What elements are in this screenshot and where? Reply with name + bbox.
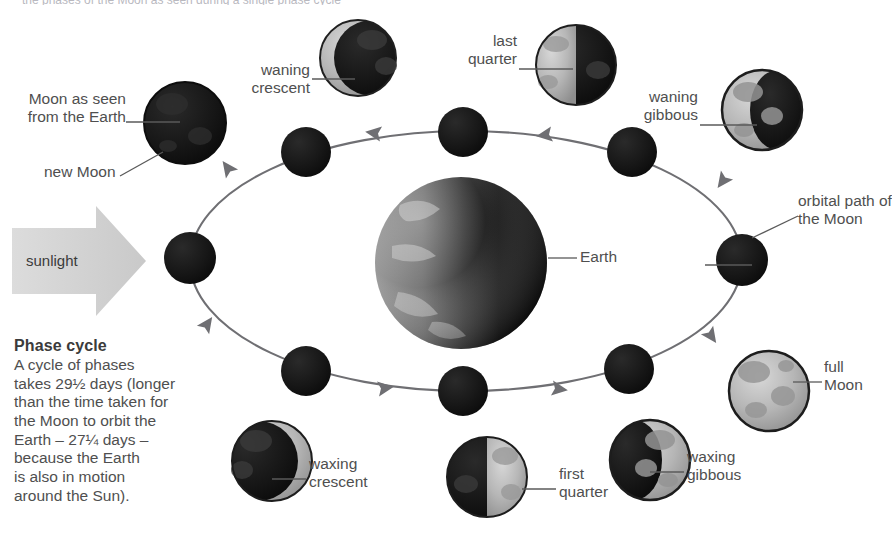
leader-orbital-path	[752, 216, 798, 238]
orbit-moon-waning-gibbous	[607, 127, 657, 177]
view-disc-first-quarter	[447, 437, 527, 517]
orbit-arrow	[217, 157, 239, 179]
earth-sphere	[375, 177, 547, 349]
label-waning-crescent: waning crescent	[190, 61, 310, 98]
label-moon-as-seen-from-earth: Moon as seen from the Earth	[8, 90, 126, 127]
label-waning-gibbous: waning gibbous	[580, 88, 698, 125]
orbit-moon-last-quarter	[438, 107, 488, 157]
label-sunlight: sunlight	[26, 252, 78, 269]
orbit-arrow	[377, 379, 395, 396]
view-disc-waning-crescent	[320, 20, 410, 96]
orbit-moon-first-quarter	[438, 366, 488, 416]
orbit-moon-waxing-gibbous	[604, 344, 654, 394]
label-new-moon: new Moon	[44, 163, 116, 181]
orbit-moon-waning-crescent	[281, 127, 331, 177]
phase-cycle-body: A cycle of phases takes 29½ days (longer…	[14, 356, 246, 505]
orbit-moon-waxing-crescent	[281, 346, 331, 396]
label-earth: Earth	[580, 248, 617, 266]
orbit-moon-full-moon	[716, 234, 768, 286]
label-orbital-path-of-the-moon: orbital path of the Moon	[798, 192, 892, 229]
phase-cycle-heading: Phase cycle	[14, 337, 246, 355]
label-waxing-gibbous: waxing gibbous	[687, 448, 741, 485]
label-last-quarter: last quarter	[419, 32, 517, 69]
phase-cycle-note: Phase cycle A cycle of phases takes 29½ …	[14, 337, 246, 505]
view-disc-waxing-gibbous	[606, 420, 690, 500]
orbit-arrow	[701, 326, 722, 348]
view-disc-waning-gibbous	[722, 70, 806, 150]
orbit-arrow	[712, 171, 734, 193]
orbit-moon-new-moon	[164, 232, 216, 284]
leader-new-moon	[120, 152, 163, 176]
label-full-moon: full Moon	[824, 358, 863, 395]
view-disc-full-moon	[729, 351, 809, 431]
label-first-quarter: first quarter	[559, 465, 608, 502]
label-waxing-crescent: waxing crescent	[309, 455, 368, 492]
